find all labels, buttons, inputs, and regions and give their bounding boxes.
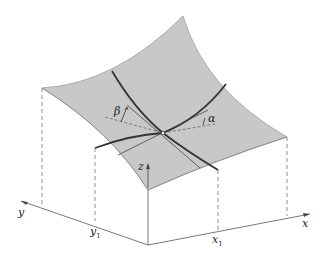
alpha-label: α	[208, 113, 215, 124]
x-axis	[148, 214, 310, 245]
y-axis-label: y	[18, 207, 24, 218]
surface-patch	[42, 16, 287, 190]
y1-label: y1	[90, 226, 101, 237]
point-p	[161, 131, 164, 134]
z-axis-label: z	[138, 161, 144, 172]
x-axis-label: x	[302, 218, 308, 229]
surface-diagram: y x z y1 x1 β α	[0, 0, 327, 261]
diagram-svg	[0, 0, 327, 261]
x1-label: x1	[212, 234, 223, 245]
beta-label: β	[114, 106, 120, 117]
y-axis	[21, 201, 148, 245]
